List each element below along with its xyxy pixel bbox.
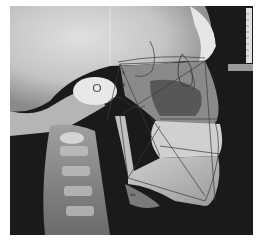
ruler xyxy=(246,8,252,63)
label-go: Go xyxy=(130,192,136,197)
cephalometric-xray: S N Ar Go xyxy=(10,6,253,235)
label-n: N xyxy=(122,82,125,87)
nasion-relator xyxy=(228,64,253,71)
label-ar: Ar xyxy=(112,110,117,115)
xray-drawing: S N Ar Go xyxy=(10,6,253,235)
atlas xyxy=(60,132,84,144)
ramus xyxy=(115,116,135,178)
